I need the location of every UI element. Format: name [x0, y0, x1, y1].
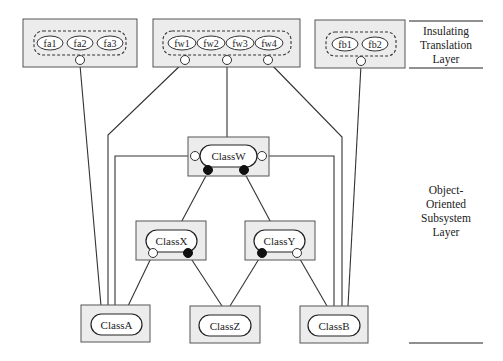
class-name: ClassA — [101, 319, 133, 331]
function-label: fw1 — [174, 38, 190, 49]
class-z[interactable]: ClassZ — [190, 306, 260, 343]
class-a[interactable]: ClassA — [81, 305, 150, 342]
class-y[interactable]: ClassY — [245, 221, 315, 260]
class-b[interactable]: ClassB — [300, 306, 368, 343]
filled-port-icon — [184, 249, 193, 258]
translation-group-fw[interactable]: fw1 fw2 fw3 fw4 — [153, 19, 300, 67]
connector-classY-classZ — [230, 254, 262, 306]
filled-port-icon — [204, 166, 213, 175]
connectors — [80, 61, 361, 306]
class-name: ClassY — [264, 235, 296, 247]
open-port-icon — [357, 57, 366, 66]
function-label: fw2 — [203, 38, 219, 49]
class-name: ClassZ — [210, 320, 241, 332]
layer-label-insulating-translation: Insulating Translation Layer — [409, 24, 483, 66]
connector-fw4-classB — [268, 61, 342, 306]
translation-group-fb[interactable]: fb1 fb2 — [315, 20, 405, 68]
class-x[interactable]: ClassX — [136, 221, 206, 260]
open-port-icon — [264, 56, 273, 65]
open-port-icon — [76, 56, 85, 65]
open-port-icon — [258, 152, 267, 161]
function-label: fa2 — [74, 38, 87, 49]
open-port-icon — [293, 249, 302, 258]
layer-separators — [409, 21, 483, 343]
open-port-icon — [149, 249, 158, 258]
layer-label-object-oriented-subsystem: Object- Oriented Subsystem Layer — [409, 183, 483, 239]
function-label: fb1 — [338, 39, 351, 50]
connector-classY-classB — [297, 254, 327, 306]
connector-fw1-classA — [108, 61, 185, 306]
class-w[interactable]: ClassW — [188, 137, 269, 176]
connector-fb-classB — [348, 65, 361, 306]
open-port-icon — [181, 56, 190, 65]
class-name: ClassB — [318, 320, 349, 332]
class-name: ClassX — [156, 235, 188, 247]
connector-classX-classA — [128, 254, 153, 306]
function-label: fa1 — [44, 38, 57, 49]
function-label: fb2 — [368, 39, 381, 50]
function-label: fw4 — [261, 38, 277, 49]
filled-port-icon — [240, 166, 249, 175]
translation-group-fa[interactable]: fa1 fa2 fa3 — [23, 19, 137, 67]
function-label: fa3 — [104, 38, 117, 49]
filled-port-icon — [258, 249, 267, 258]
connector-fa-classA — [80, 65, 101, 306]
open-port-icon — [191, 152, 200, 161]
open-port-icon — [223, 56, 232, 65]
connector-classX-classZ — [188, 254, 222, 306]
function-label: fw3 — [232, 38, 248, 49]
class-name: ClassW — [211, 150, 246, 162]
